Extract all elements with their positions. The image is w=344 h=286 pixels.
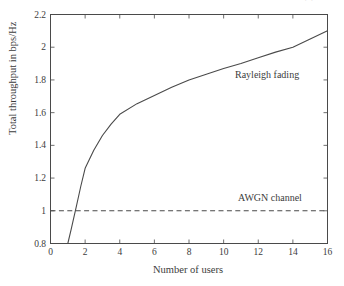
x-axis-tick-label: 8 [187,247,192,257]
y-axis-tick-label: 2.2 [20,10,46,20]
x-axis-tick-label: 4 [117,247,122,257]
figure-container: · · 0.811.21.41.61.822.20246810121416 To… [0,0,344,286]
series-annotation-rayleigh-fading: Rayleigh fading [235,69,299,80]
chart-plot-area [0,0,344,286]
y-axis-tick-label: 1.2 [20,173,46,183]
x-axis-tick-label: 12 [254,247,264,257]
y-axis-tick-label: 1.8 [20,75,46,85]
series-annotation-awgn-channel: AWGN channel [238,192,302,203]
y-axis-tick-label: 0.8 [20,239,46,249]
y-axis-tick-label: 1.6 [20,108,46,118]
x-axis-tick-label: 0 [48,247,53,257]
data-series-group [51,31,328,244]
x-axis-tick-label: 14 [288,247,298,257]
y-axis-tick-label: 1 [20,206,46,216]
x-axis-tick-label: 16 [323,247,333,257]
y-axis-title: Total throughput in bps/Hz [7,121,18,135]
y-axis-tick-label: 2 [20,42,46,52]
x-axis-title: Number of users [153,264,223,275]
x-axis-tick-label: 2 [83,247,88,257]
y-axis-tick-label: 1.4 [20,140,46,150]
x-axis-tick-label: 10 [219,247,229,257]
x-axis-tick-label: 6 [152,247,157,257]
